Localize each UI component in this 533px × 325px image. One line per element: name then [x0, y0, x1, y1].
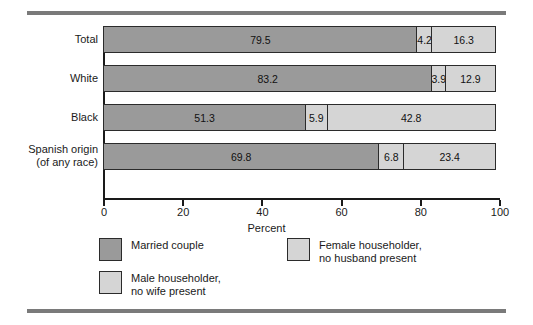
- category-label-white: White: [2, 72, 98, 85]
- bar-value-label: 51.3: [194, 112, 214, 124]
- bar-segment-black-2: 42.8: [327, 104, 496, 131]
- category-label-total: Total: [2, 33, 98, 46]
- bar-segment-total-2: 16.3: [431, 26, 496, 53]
- bar-value-label: 6.8: [384, 151, 399, 163]
- bar-value-label: 42.8: [401, 112, 421, 124]
- bar-row-spanish-origin: 69.86.823.4: [103, 143, 499, 170]
- bar-value-label: 23.4: [439, 151, 459, 163]
- bar-value-label: 16.3: [453, 34, 473, 46]
- plot-area: 79.54.216.3 83.23.912.9 51.35.942.8 69.8…: [103, 26, 499, 196]
- legend-item-female-householder[interactable]: Female householder, no husband present: [287, 238, 422, 265]
- legend: Married couple Male householder, no wife…: [99, 238, 439, 300]
- x-axis-tick-label-40: 40: [256, 206, 268, 218]
- x-axis-tick-label-100: 100: [491, 206, 509, 218]
- bar-value-label: 12.9: [460, 73, 480, 85]
- bar-row-black: 51.35.942.8: [103, 104, 499, 131]
- x-axis-tick-label-0: 0: [101, 206, 107, 218]
- x-axis-tick-label-20: 20: [177, 206, 189, 218]
- bar-value-label: 79.5: [250, 34, 270, 46]
- bar-segment-white-0: 83.2: [103, 65, 432, 92]
- bar-row-total: 79.54.216.3: [103, 26, 499, 53]
- category-label-black: Black: [2, 111, 98, 124]
- legend-item-married-couple[interactable]: Married couple: [99, 238, 204, 261]
- category-label-group: Total White Black Spanish origin (of any…: [0, 26, 98, 196]
- bar-value-label: 3.9: [431, 73, 446, 85]
- x-axis-tick-label-60: 60: [335, 206, 347, 218]
- bottom-divider-rule: [27, 309, 506, 313]
- category-label-spanish-origin: Spanish origin (of any race): [2, 143, 98, 169]
- legend-label-married-couple: Married couple: [131, 238, 204, 252]
- bar-value-label: 5.9: [309, 112, 324, 124]
- bar-segment-spanish-origin-1: 6.8: [378, 143, 405, 170]
- legend-item-male-householder[interactable]: Male householder, no wife present: [99, 271, 221, 298]
- bar-row-white: 83.23.912.9: [103, 65, 499, 92]
- legend-label-female-householder: Female householder, no husband present: [319, 238, 422, 265]
- bar-segment-black-1: 5.9: [305, 104, 328, 131]
- x-axis-line: [103, 198, 500, 200]
- legend-swatch-female-householder: [287, 238, 310, 261]
- bar-segment-spanish-origin-2: 23.4: [403, 143, 496, 170]
- bar-value-label: 4.2: [417, 34, 432, 46]
- bar-segment-black-0: 51.3: [103, 104, 306, 131]
- bar-segment-white-2: 12.9: [445, 65, 496, 92]
- bar-segment-total-0: 79.5: [103, 26, 418, 53]
- top-divider-rule: [27, 11, 506, 15]
- x-axis-tick-label-80: 80: [415, 206, 427, 218]
- bar-segment-total-1: 4.2: [416, 26, 433, 53]
- legend-swatch-male-householder: [99, 271, 122, 294]
- bar-value-label: 83.2: [258, 73, 278, 85]
- bar-value-label: 69.8: [231, 151, 251, 163]
- legend-swatch-married-couple: [99, 238, 122, 261]
- bar-segment-spanish-origin-0: 69.8: [103, 143, 379, 170]
- x-axis-title: Percent: [0, 222, 533, 234]
- legend-label-male-householder: Male householder, no wife present: [131, 271, 221, 298]
